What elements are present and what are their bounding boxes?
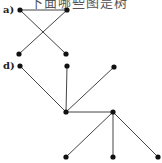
graph-edge bbox=[66, 67, 114, 112]
graph-node bbox=[63, 109, 68, 114]
graph-node bbox=[110, 109, 115, 114]
graph-edges bbox=[19, 10, 158, 157]
graph-node bbox=[64, 7, 69, 12]
graph-node bbox=[63, 51, 68, 56]
graph-node bbox=[17, 7, 22, 12]
graph-node bbox=[155, 154, 160, 159]
graph-node bbox=[111, 64, 116, 69]
graph-edge bbox=[66, 66, 67, 112]
graph-edge bbox=[66, 112, 113, 157]
graph-node bbox=[16, 51, 21, 56]
graph-edge bbox=[113, 112, 158, 157]
graph-node bbox=[110, 154, 115, 159]
graph-node bbox=[64, 63, 69, 68]
graph-diagram bbox=[0, 0, 162, 163]
graph-edge bbox=[20, 66, 66, 112]
graph-node bbox=[63, 154, 68, 159]
graph-node bbox=[17, 63, 22, 68]
